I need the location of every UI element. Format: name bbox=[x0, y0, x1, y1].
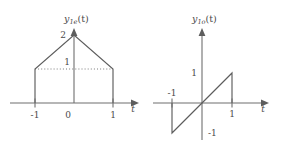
y-value-label-1: 1 bbox=[191, 68, 197, 78]
function-label-even: y1e(t) bbox=[63, 13, 89, 26]
plot-even-part: -1 0 1 2 1 t y1e(t) bbox=[0, 0, 145, 159]
function-label-odd: y1o(t) bbox=[191, 13, 217, 26]
figure-canvas: -1 0 1 2 1 t y1e(t) bbox=[0, 0, 291, 159]
plot-odd-svg: -1 1 1 -1 t y1o(t) bbox=[145, 0, 291, 159]
y-axis-arrow-icon bbox=[199, 28, 206, 36]
x-tick-label-minus1: -1 bbox=[168, 88, 177, 98]
plot-odd-part: -1 1 1 -1 t y1o(t) bbox=[145, 0, 291, 159]
y-value-label-minus1: -1 bbox=[208, 128, 217, 138]
function-label-even-argument: (t) bbox=[77, 13, 88, 24]
x-tick-label-zero: 0 bbox=[65, 110, 71, 120]
function-label-odd-subscript: 1o bbox=[197, 18, 205, 26]
x-tick-label-plus1: 1 bbox=[110, 110, 116, 120]
x-axis-name: t bbox=[261, 104, 265, 114]
plot-even-svg: -1 0 1 2 1 t y1e(t) bbox=[0, 0, 145, 159]
x-axis-name: t bbox=[131, 104, 135, 114]
x-tick-label-minus1: -1 bbox=[31, 110, 40, 120]
y-value-label-2: 2 bbox=[60, 30, 66, 40]
x-tick-label-plus1: 1 bbox=[229, 109, 235, 119]
y-value-label-1: 1 bbox=[64, 57, 70, 67]
function-label-even-subscript: 1e bbox=[69, 18, 77, 26]
function-label-odd-argument: (t) bbox=[206, 13, 217, 24]
